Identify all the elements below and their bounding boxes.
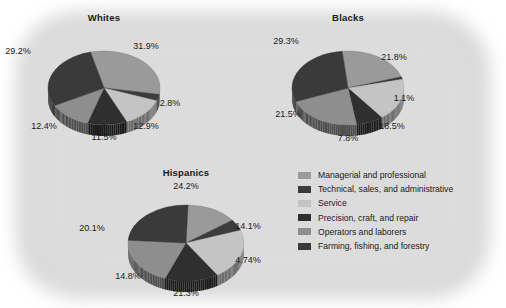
pie-slice-side [223,271,225,283]
pie-slice-side [159,277,161,289]
pie-slice-side [156,275,158,287]
pie-slice-side [227,269,228,281]
pie-slice-side [208,278,210,290]
pie-slice-side [218,274,220,286]
pie-slice-side [226,270,227,282]
pie-slice-side [133,259,134,271]
slice-label: 4.74% [235,255,261,265]
pie-slice-side [141,267,142,279]
pie-slice-side [212,276,214,288]
pie-slice-side [143,269,144,281]
pie-slice-side [149,272,151,284]
slice-label: 24.2% [173,181,199,191]
pie-slice-side [163,278,165,290]
legend-swatch-operators [298,228,311,235]
pie-chart-hispanics: Hispanics14.1%4.74%21.3%14.8%20.1%24.2% [0,0,506,308]
legend-label-precision: Precision, craft, and repair [318,213,418,223]
legend-label-technical: Technical, sales, and administrative [318,184,453,194]
legend-item: Farming, fishing, and forestry [298,239,453,253]
pie-slice-side [152,274,154,286]
pie-slice-side [220,273,222,285]
legend-swatch-managerial [298,172,311,179]
legend-swatch-farming [298,243,311,250]
pie-slice-side [202,279,204,290]
pie-slice-side [217,275,218,286]
slice-label: 14.1% [235,221,261,231]
pie-slice-side [130,254,131,266]
pie-slice-side [132,258,133,270]
pie-slice-side [233,264,234,276]
pie-slice-side [154,275,156,287]
pie-slice-side [229,268,230,280]
pie-slice-side [204,279,206,290]
legend-item: Service [298,196,453,210]
pie-slice-side [142,268,143,280]
pie-slice-side [200,279,202,290]
chart-canvas: Whites31.9%2.8%12.9%11.5%12.4%29.2%Black… [0,0,506,308]
pie-slice-side [206,278,208,289]
legend-swatch-service [298,200,311,207]
legend-label-farming: Farming, fishing, and forestry [318,241,429,251]
pie-slice-side [148,272,150,284]
pie-slice-side [221,272,223,284]
pie-slice-side [231,266,232,278]
pie-slice-side [158,276,160,288]
legend-label-managerial: Managerial and professional [318,170,426,180]
legend: Managerial and professional Technical, s… [298,168,453,253]
pie-slice-side [225,270,226,282]
pie-slice-side [210,277,212,289]
pie-slice-side [146,271,147,283]
slice-label: 20.1% [79,223,105,233]
pie-slice-side [165,278,167,289]
legend-item: Operators and laborers [298,225,453,239]
legend-item: Managerial and professional [298,168,453,182]
pie-slice-side [170,280,172,291]
legend-label-operators: Operators and laborers [318,227,406,237]
pie-slice-side [130,253,131,265]
pie-slice-side [214,276,216,288]
pie-slice-side [215,275,217,287]
pie-slice-side [145,270,146,282]
pie-slice-side [161,277,163,289]
legend-swatch-precision [298,214,311,221]
pie-slice-side [234,263,235,275]
legend-item: Precision, craft, and repair [298,211,453,225]
legend-item: Technical, sales, and administrative [298,182,453,196]
pie-slice-side [168,279,170,290]
chart-title: Hispanics [163,167,210,178]
pie-slice-side [151,273,153,285]
pie-slice-side [132,256,133,268]
slice-label: 21.3% [173,288,199,298]
pie-slice-side [230,267,231,279]
slice-label: 14.8% [115,271,141,281]
pie-slice [128,205,188,243]
legend-swatch-technical [298,186,311,193]
pie-slice-side [131,255,132,267]
legend-label-service: Service [318,198,347,208]
pie-slice-side [167,279,169,290]
